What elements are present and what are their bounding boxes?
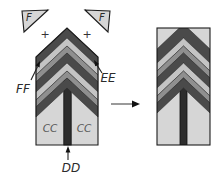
transform-arrow-head (132, 101, 140, 108)
label-ff: FF (16, 82, 31, 96)
label-dd: DD (62, 161, 80, 175)
dd-arrow-head (66, 146, 71, 153)
transform-arrow (111, 101, 140, 108)
label-ee: EE (100, 71, 116, 85)
label-cc-right: CC (77, 122, 92, 134)
label-cc-left: CC (43, 122, 58, 134)
label-f-left: F (26, 12, 32, 23)
diagram-canvas: F F + + CC CC FF EE DD (0, 0, 223, 180)
label-f-right: F (99, 12, 105, 23)
after-panel (157, 24, 210, 145)
plus-mark-right: + (82, 28, 91, 41)
before-panel: F F + + CC CC FF EE DD (16, 10, 116, 175)
figure: F F + + CC CC FF EE DD (0, 0, 223, 180)
plus-mark-left: + (40, 28, 49, 41)
